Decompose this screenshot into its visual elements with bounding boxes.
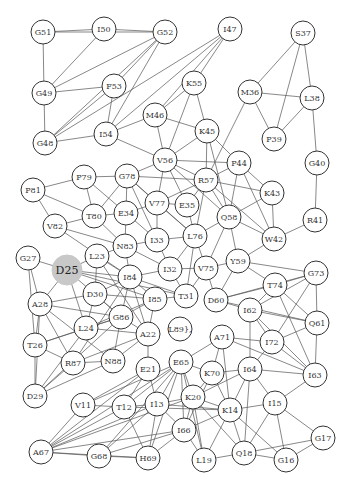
edge-D60-Q61 bbox=[216, 300, 317, 323]
node-K55: K55 bbox=[182, 71, 206, 95]
node-P79: P79 bbox=[72, 165, 96, 189]
graph-nodes: G51I50G52I47S37G49F53K55M46M36L38G48I54P… bbox=[16, 17, 335, 472]
node-G27: G27 bbox=[16, 246, 40, 270]
node-label: Q58 bbox=[221, 213, 238, 222]
node-label: D25 bbox=[56, 264, 79, 277]
node-label: I62 bbox=[243, 306, 256, 315]
node-label: Y59 bbox=[229, 257, 245, 266]
node-label: I85 bbox=[148, 295, 161, 304]
node-label: T12 bbox=[116, 403, 132, 412]
node-D60: D60 bbox=[204, 288, 228, 312]
node-R87: R87 bbox=[61, 351, 85, 375]
node-label: K43 bbox=[264, 189, 280, 198]
node-G73: G73 bbox=[304, 261, 328, 285]
node-label: P44 bbox=[231, 159, 247, 168]
node-T80: T80 bbox=[82, 204, 106, 228]
node-label: G51 bbox=[35, 28, 52, 37]
node-D30: D30 bbox=[83, 282, 107, 306]
node-G68: G68 bbox=[87, 444, 111, 468]
node-label: R41 bbox=[307, 216, 323, 225]
node-M36: M36 bbox=[238, 80, 262, 104]
node-label: M46 bbox=[146, 111, 164, 120]
node-label: E35 bbox=[179, 201, 195, 210]
node-T31: T31 bbox=[174, 284, 198, 308]
node-label: P39 bbox=[266, 135, 282, 144]
node-G51: G51 bbox=[31, 20, 55, 44]
node-label: N88 bbox=[104, 357, 121, 366]
node-I33: I33 bbox=[145, 228, 169, 252]
node-P39: P39 bbox=[262, 127, 286, 151]
node-V75: V75 bbox=[194, 256, 218, 280]
node-label: V11 bbox=[74, 401, 91, 410]
node-label: I15 bbox=[268, 399, 281, 408]
node-label: G86 bbox=[113, 313, 130, 322]
node-label: R57 bbox=[198, 176, 214, 185]
node-I13: I13 bbox=[145, 392, 169, 416]
node-V56: V56 bbox=[153, 148, 177, 172]
node-A28: A28 bbox=[28, 292, 52, 316]
node-label: I13 bbox=[150, 400, 163, 409]
node-G52: G52 bbox=[153, 20, 177, 44]
node-label: L19 bbox=[196, 456, 212, 465]
node-label: T74 bbox=[267, 281, 283, 290]
node-I72: I72 bbox=[260, 330, 284, 354]
node-G17: G17 bbox=[311, 426, 335, 450]
node-T74: T74 bbox=[263, 273, 287, 297]
node-label: L23 bbox=[89, 252, 105, 261]
node-I66: I66 bbox=[172, 418, 196, 442]
node-L89},: L89}, bbox=[168, 317, 192, 341]
node-G86: G86 bbox=[109, 305, 133, 329]
node-label: K55 bbox=[186, 79, 202, 88]
node-A71: A71 bbox=[210, 325, 234, 349]
node-label: I72 bbox=[265, 338, 278, 347]
node-I15: I15 bbox=[263, 391, 287, 415]
edge-I66-A67 bbox=[41, 430, 184, 452]
node-label: G27 bbox=[20, 254, 37, 263]
node-K70: K70 bbox=[200, 361, 224, 385]
node-L24: L24 bbox=[74, 316, 98, 340]
node-label: W42 bbox=[265, 235, 283, 244]
node-label: T80 bbox=[86, 212, 102, 221]
node-E65: E65 bbox=[169, 350, 193, 374]
node-label: E65 bbox=[173, 358, 189, 367]
node-label: I63 bbox=[308, 371, 321, 380]
node-label: D29 bbox=[27, 392, 44, 401]
node-I85: I85 bbox=[143, 287, 167, 311]
node-label: G73 bbox=[308, 269, 325, 278]
node-G16: G16 bbox=[274, 448, 298, 472]
node-label: P81 bbox=[25, 186, 41, 195]
node-label: G49 bbox=[36, 89, 53, 98]
node-P44: P44 bbox=[227, 151, 251, 175]
node-V11: V11 bbox=[71, 393, 95, 417]
node-G40: G40 bbox=[305, 151, 329, 175]
node-label: N83 bbox=[116, 242, 133, 251]
node-label: E34 bbox=[118, 209, 134, 218]
node-I54: I54 bbox=[94, 122, 118, 146]
node-label: V75 bbox=[197, 264, 214, 273]
node-label: A67 bbox=[32, 448, 49, 457]
node-I50: I50 bbox=[92, 17, 116, 41]
node-P81: P81 bbox=[21, 178, 45, 202]
node-K20: K20 bbox=[181, 385, 205, 409]
node-Y59: Y59 bbox=[226, 249, 250, 273]
node-label: D60 bbox=[208, 296, 225, 305]
node-label: T31 bbox=[178, 292, 194, 301]
node-L38: L38 bbox=[300, 86, 324, 110]
node-label: K20 bbox=[185, 393, 201, 402]
node-label: I66 bbox=[177, 426, 190, 435]
node-label: A71 bbox=[213, 333, 230, 342]
node-R57: R57 bbox=[194, 168, 218, 192]
node-label: G48 bbox=[37, 139, 54, 148]
node-I47: I47 bbox=[218, 17, 242, 41]
node-A67: A67 bbox=[29, 440, 53, 464]
node-label: Q61 bbox=[309, 319, 326, 328]
node-K14: K14 bbox=[218, 398, 242, 422]
node-label: L38 bbox=[304, 94, 320, 103]
node-label: K14 bbox=[222, 406, 238, 415]
node-H69: H69 bbox=[136, 446, 160, 470]
node-label: K70 bbox=[204, 369, 220, 378]
node-N83: N83 bbox=[113, 234, 137, 258]
node-N88: N88 bbox=[101, 349, 125, 373]
node-L23: L23 bbox=[85, 244, 109, 268]
node-label: E21 bbox=[140, 365, 156, 374]
